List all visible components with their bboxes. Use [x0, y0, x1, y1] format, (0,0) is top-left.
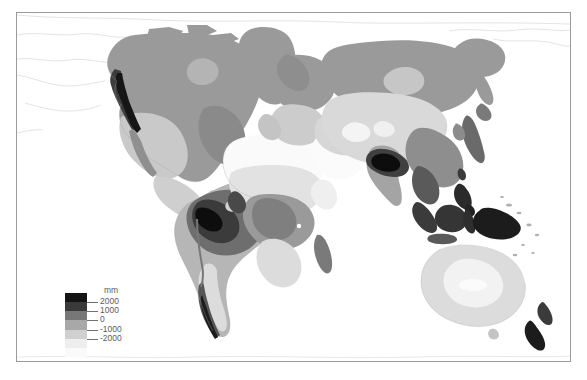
legend: mm 200010000-1000-2000 [62, 289, 140, 361]
legend-unit-label: mm [104, 286, 118, 295]
figure-container: mm 200010000-1000-2000 [0, 0, 587, 380]
af-lake-victoria [297, 224, 301, 228]
legend-tick-mark-4 [87, 339, 98, 340]
legend-band-4 [65, 330, 87, 339]
legend-tick-mark-2 [87, 320, 98, 321]
legend-band-3 [65, 320, 87, 329]
legend-tick-label-4: -2000 [100, 334, 122, 343]
legend-tick-mark-0 [87, 302, 98, 303]
legend-band-6 [65, 348, 87, 357]
legend-band-1 [65, 302, 87, 311]
legend-band-2 [65, 311, 87, 320]
na-hudson-lighter [187, 58, 219, 85]
legend-tick-mark-3 [87, 330, 98, 331]
legend-band-0 [65, 293, 87, 302]
legend-colorbar [65, 293, 87, 357]
legend-band-5 [65, 339, 87, 348]
mc-java [427, 234, 457, 244]
au-desert-core [459, 279, 487, 291]
map-frame: mm 200010000-1000-2000 [16, 12, 571, 362]
legend-tick-mark-1 [87, 311, 98, 312]
